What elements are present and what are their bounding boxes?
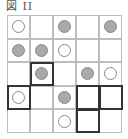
grid-cell xyxy=(99,86,122,110)
grid-cell xyxy=(53,109,76,133)
grid-cell xyxy=(76,62,99,86)
gray-circle-icon xyxy=(104,20,117,33)
grid-cell xyxy=(99,109,122,133)
grid-cell xyxy=(76,15,99,39)
figure-title: 図 II xyxy=(6,0,33,13)
gray-circle-icon xyxy=(58,91,71,104)
grid-cell xyxy=(76,86,99,110)
grid-cell xyxy=(7,86,30,110)
grid-cell xyxy=(53,15,76,39)
grid-cell xyxy=(7,39,30,63)
grid-cell xyxy=(7,15,30,39)
grid-cell xyxy=(7,109,30,133)
grid-cell xyxy=(30,39,53,63)
grid-cell xyxy=(99,62,122,86)
white-circle-icon xyxy=(58,115,71,128)
grid-cell xyxy=(30,109,53,133)
grid-cell xyxy=(53,62,76,86)
grid-cell xyxy=(7,62,30,86)
white-circle-icon xyxy=(104,67,117,80)
grid-cell xyxy=(76,39,99,63)
grid-cell xyxy=(99,15,122,39)
white-circle-icon xyxy=(12,91,25,104)
grid-cell xyxy=(99,39,122,63)
gray-circle-icon xyxy=(12,44,25,57)
gray-circle-icon xyxy=(81,67,94,80)
white-circle-icon xyxy=(12,20,25,33)
grid-cell xyxy=(30,15,53,39)
puzzle-grid xyxy=(7,15,122,133)
grid-cell xyxy=(53,39,76,63)
grid-cell xyxy=(53,86,76,110)
grid-cell xyxy=(30,86,53,110)
gray-circle-icon xyxy=(35,67,48,80)
grid-cell xyxy=(30,62,53,86)
white-circle-icon xyxy=(58,44,71,57)
gray-circle-icon xyxy=(35,44,48,57)
gray-circle-icon xyxy=(58,20,71,33)
grid-cell xyxy=(76,109,99,133)
